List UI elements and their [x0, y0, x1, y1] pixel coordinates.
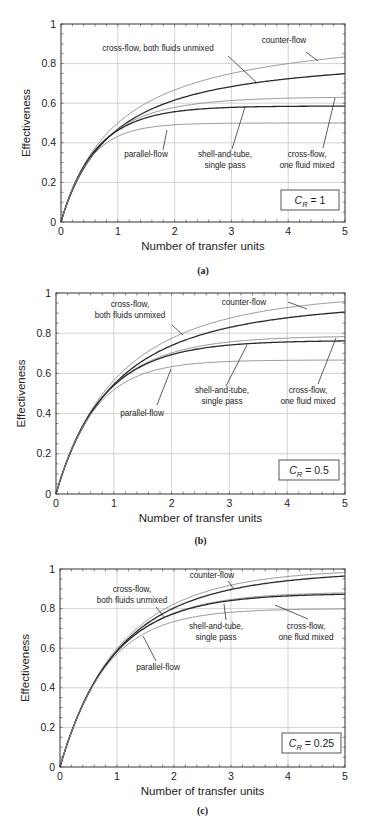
- cr-annotation-box: CR = 0.5: [279, 460, 339, 480]
- annotation-cross-mixed: cross-flow,one fluid mixed: [279, 98, 335, 170]
- annotation-counter: counter-flow: [262, 36, 318, 61]
- x-tick-label: 0: [53, 497, 59, 509]
- y-axis-title: Effectiveness: [20, 89, 32, 157]
- x-tick-label: 3: [228, 225, 234, 237]
- x-tick-label: 0: [57, 770, 63, 782]
- x-tick-label: 2: [171, 770, 177, 782]
- annotation-shell: shell-and-tube,single pass: [195, 345, 249, 406]
- leader-line: [224, 604, 226, 620]
- annotation-parallel: parallel-flow: [120, 369, 171, 418]
- svg-text:counter-flow: counter-flow: [190, 571, 235, 580]
- svg-text:one fluid mixed: one fluid mixed: [278, 633, 334, 642]
- y-tick-label: 0.4: [40, 681, 55, 693]
- svg-text:shell-and-tube,: shell-and-tube,: [189, 622, 243, 631]
- annotation-cross-mixed: cross-flow,one fluid mixed: [275, 605, 334, 642]
- x-tick-label: 2: [169, 497, 175, 509]
- chart-panel-a: 01234500.20.40.60.81Number of transfer u…: [20, 18, 348, 278]
- y-tick-label: 0.2: [41, 176, 56, 188]
- annotation-parallel: parallel-flow: [124, 130, 168, 159]
- svg-text:cross-flow,: cross-flow,: [113, 585, 152, 594]
- svg-text:cross-flow, both fluids unmixe: cross-flow, both fluids unmixed: [102, 44, 214, 53]
- chart-panel-c: 01234500.20.40.60.81Number of transfer u…: [19, 563, 348, 818]
- y-tick-label: 0.6: [36, 367, 51, 379]
- effectiveness-ntu-figure: 01234500.20.40.60.81Number of transfer u…: [0, 0, 368, 819]
- x-tick-label: 5: [342, 225, 348, 237]
- svg-text:counter-flow: counter-flow: [222, 298, 267, 307]
- leader-line: [318, 338, 336, 384]
- annotation-shell: shell-and-tube,single pass: [189, 604, 243, 642]
- x-tick-label: 1: [114, 770, 120, 782]
- chart-panel-b: 01234500.20.40.60.81Number of transfer u…: [15, 287, 348, 548]
- y-tick-label: 1: [50, 18, 56, 30]
- svg-text:shell-and-tube,: shell-and-tube,: [195, 386, 249, 395]
- y-tick-label: 0.4: [41, 136, 56, 148]
- svg-text:counter-flow: counter-flow: [262, 36, 307, 45]
- x-tick-label: 4: [284, 497, 290, 509]
- leader-line: [157, 369, 171, 405]
- curve-annotations: counter-flowcross-flow,both fluids unmix…: [97, 571, 334, 672]
- annotation-counter: counter-flow: [222, 298, 307, 309]
- svg-text:both fluids unmixed: both fluids unmixed: [97, 596, 168, 605]
- x-tick-label: 1: [115, 225, 121, 237]
- svg-text:single pass: single pass: [196, 633, 237, 642]
- annotation-shell: shell-and-tube,single pass: [198, 107, 252, 170]
- y-axis-title: Effectiveness: [19, 634, 31, 702]
- svg-text:single pass: single pass: [202, 397, 243, 406]
- leader-line: [163, 130, 167, 150]
- panel-sublabel: (a): [197, 265, 209, 277]
- y-tick-label: 0.8: [36, 327, 51, 339]
- x-tick-label: 2: [172, 225, 178, 237]
- y-tick-label: 0.8: [41, 57, 56, 69]
- y-tick-label: 1: [45, 287, 51, 299]
- annotation-cross-mixed: cross-flow,one fluid mixed: [280, 338, 336, 406]
- svg-text:shell-and-tube,: shell-and-tube,: [198, 150, 252, 159]
- y-tick-label: 0.4: [36, 407, 51, 419]
- annotation-cross-unmixed: cross-flow,both fluids unmixed: [95, 300, 183, 335]
- svg-text:parallel-flow: parallel-flow: [124, 150, 168, 159]
- svg-text:cross-flow,: cross-flow,: [111, 300, 150, 309]
- x-axis-title: Number of transfer units: [141, 240, 265, 252]
- x-tick-label: 4: [285, 225, 291, 237]
- svg-text:one fluid mixed: one fluid mixed: [280, 397, 336, 406]
- x-tick-label: 3: [228, 770, 234, 782]
- x-axis-title: Number of transfer units: [139, 512, 263, 524]
- panel-sublabel: (c): [197, 805, 208, 817]
- svg-text:both fluids unmixed: both fluids unmixed: [95, 311, 166, 320]
- svg-text:cross-flow,: cross-flow,: [288, 150, 327, 159]
- cr-annotation-box: CR = 1: [281, 190, 339, 210]
- y-tick-label: 0: [45, 488, 51, 500]
- x-tick-label: 5: [342, 770, 348, 782]
- annotation-counter: counter-flow: [190, 571, 235, 589]
- cr-annotation-box: CR = 0.25: [282, 733, 341, 753]
- svg-text:one fluid mixed: one fluid mixed: [279, 161, 335, 170]
- x-tick-label: 5: [342, 497, 348, 509]
- x-tick-label: 4: [285, 770, 291, 782]
- svg-text:parallel-flow: parallel-flow: [136, 663, 180, 672]
- y-tick-label: 1: [49, 563, 55, 575]
- y-tick-label: 0.2: [40, 721, 55, 733]
- y-tick-label: 0.8: [40, 602, 55, 614]
- leader-line: [275, 605, 308, 619]
- x-tick-label: 1: [111, 497, 117, 509]
- x-axis-title: Number of transfer units: [141, 785, 265, 797]
- y-tick-label: 0.6: [40, 642, 55, 654]
- y-tick-label: 0.6: [41, 97, 56, 109]
- svg-text:cross-flow,: cross-flow,: [289, 386, 328, 395]
- svg-text:cross-flow,: cross-flow,: [287, 622, 326, 631]
- y-tick-label: 0: [49, 761, 55, 773]
- x-tick-label: 0: [58, 225, 64, 237]
- y-axis-title: Effectiveness: [15, 359, 27, 427]
- panel-sublabel: (b): [194, 535, 206, 547]
- y-tick-label: 0.2: [36, 447, 51, 459]
- annotation-parallel: parallel-flow: [136, 636, 180, 672]
- svg-text:single pass: single pass: [205, 161, 246, 170]
- svg-text:parallel-flow: parallel-flow: [120, 409, 164, 418]
- y-tick-label: 0: [50, 216, 56, 228]
- x-tick-label: 3: [226, 497, 232, 509]
- leader-line: [306, 52, 318, 61]
